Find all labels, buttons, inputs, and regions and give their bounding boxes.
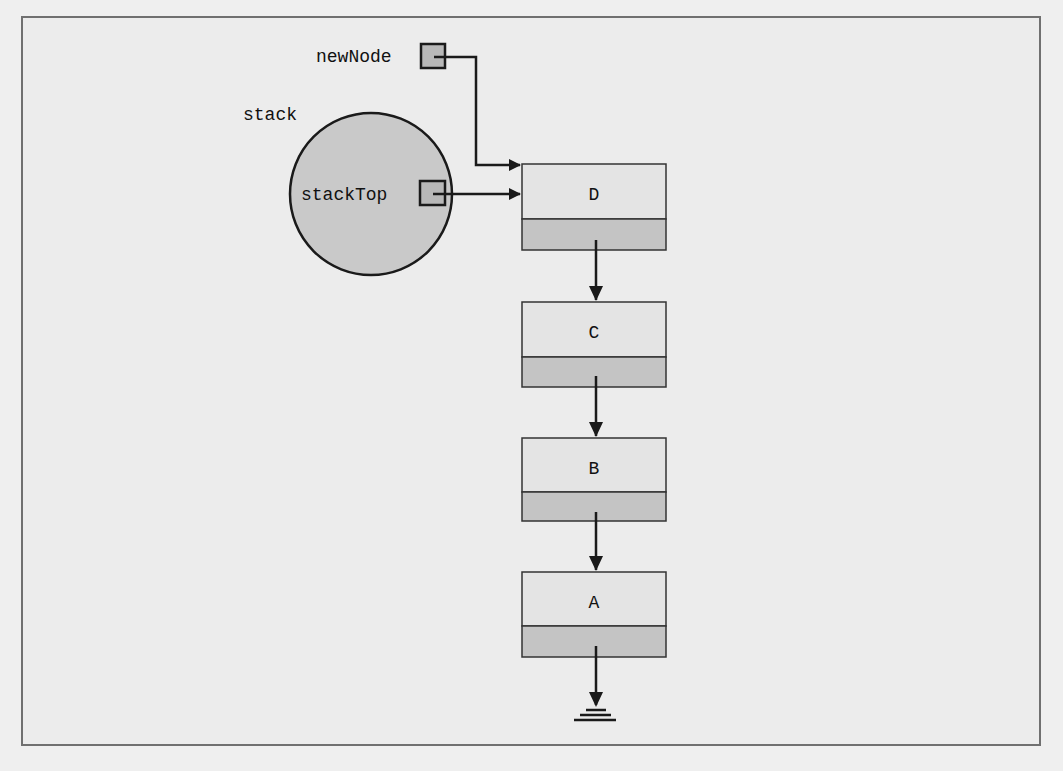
- node-C: C: [522, 302, 666, 387]
- new-node-arrow: [434, 57, 520, 165]
- node-label: A: [589, 593, 600, 613]
- arrowhead-icon: [589, 692, 603, 707]
- node-D: D: [522, 164, 666, 250]
- stack-diagram: newNode stack stackTop D C B A: [0, 0, 1063, 771]
- stack-label: stack: [243, 105, 297, 125]
- arrowhead-icon: [589, 422, 603, 437]
- new-node-label: newNode: [316, 47, 392, 67]
- node-label: C: [589, 323, 600, 343]
- node-label: D: [589, 185, 600, 205]
- stack-top-label: stackTop: [301, 185, 387, 205]
- node-label: B: [589, 459, 600, 479]
- null-ground-icon: [574, 710, 616, 720]
- arrowhead-icon: [589, 286, 603, 301]
- node-B: B: [522, 438, 666, 521]
- arrowhead-icon: [589, 556, 603, 571]
- node-A: A: [522, 572, 666, 657]
